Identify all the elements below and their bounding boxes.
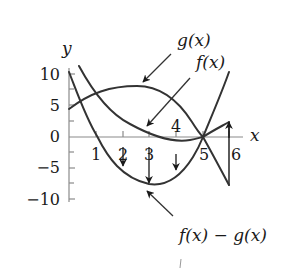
y-tick-minus-5: −5: [36, 158, 60, 177]
y-tick-0: 0: [50, 127, 60, 146]
y-tick-5: 5: [50, 96, 60, 115]
stray-mark: [180, 259, 181, 268]
diff-label: f(x) − g(x): [177, 225, 267, 245]
y-axis-label: y: [61, 38, 72, 58]
y-tick-10: 10: [40, 65, 60, 84]
x-axis-label: x: [250, 125, 260, 145]
x-tick-3: 3: [144, 145, 154, 164]
diff-label-arrow: [147, 191, 173, 216]
g-label: g(x): [177, 30, 211, 50]
g-label-arrow: [143, 54, 171, 82]
x-tick-2: 2: [118, 145, 128, 164]
x-tick-4: 4: [171, 117, 181, 136]
x-tick-1: 1: [91, 145, 101, 164]
y-tick-minus-10: −10: [26, 190, 60, 209]
function-difference-diagram: y x 10 5 0 −5 −10 1 2 3 4 5 6 g(x) f(x) …: [0, 0, 293, 280]
x-tick-5: 5: [199, 145, 209, 164]
f-label: f(x): [194, 52, 225, 72]
f-label-arrow: [147, 78, 190, 126]
curve-f: [79, 66, 229, 141]
x-tick-6: 6: [231, 145, 241, 164]
